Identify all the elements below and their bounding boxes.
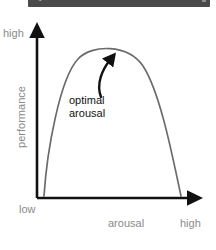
optimal-arousal-annotation: optimal arousal [69, 94, 105, 120]
annotation-line-2: arousal [69, 107, 105, 120]
y-axis-high-label: high [3, 27, 24, 39]
y-axis-title: performance [15, 77, 27, 157]
x-axis-high-label: high [180, 217, 201, 229]
optimal-arousal-arrow [99, 60, 110, 97]
x-axis-title: arousal [108, 217, 144, 229]
x-axis-low-label: low [19, 203, 36, 215]
figure-container: Figure 1 of 1 high performance low arous… [0, 0, 216, 250]
annotation-line-1: optimal [69, 94, 104, 106]
performance-curve [44, 49, 181, 196]
